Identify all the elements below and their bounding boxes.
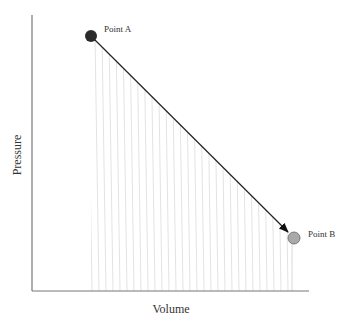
point-a-marker xyxy=(85,30,97,42)
x-axis-label: Volume xyxy=(152,302,189,316)
pv-diagram: Point A Point B Volume Pressure xyxy=(0,0,349,327)
y-axis-label: Pressure xyxy=(10,135,24,176)
point-b-label: Point B xyxy=(308,229,335,239)
process-arrow xyxy=(94,39,288,232)
work-area-hatch xyxy=(88,36,295,291)
point-b-marker xyxy=(288,232,300,244)
point-a-label: Point A xyxy=(104,24,132,34)
